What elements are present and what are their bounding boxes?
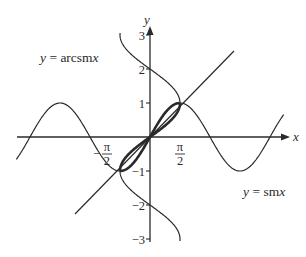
label-func: arcsm: [60, 50, 93, 65]
x-axis-label: x: [292, 129, 299, 144]
x-tick-label: π2−: [93, 140, 112, 168]
svg-text:π: π: [177, 140, 184, 154]
label-eq: =: [46, 50, 60, 65]
svg-text:2: 2: [177, 154, 183, 168]
label-func: sm: [263, 184, 279, 199]
y-tick-label: −1: [132, 165, 145, 179]
svg-text:π: π: [104, 140, 111, 154]
x-axis-arrow-icon: [281, 134, 290, 141]
label-y: y: [38, 50, 46, 65]
label-eq: =: [249, 184, 263, 199]
diagram-canvas: x y 321−1−2−3 π2−π2 y = arcsmx y = smx: [0, 0, 306, 257]
y-axis-label: y: [142, 12, 150, 27]
label-y: y: [241, 184, 249, 199]
label-var: x: [92, 50, 99, 65]
function-plot: x y 321−1−2−3 π2−π2 y = arcsmx y = smx: [0, 0, 306, 257]
x-tick-label: π2: [175, 140, 185, 168]
y-tick-label: 3: [139, 29, 145, 43]
label-var: x: [278, 184, 285, 199]
y-tick-label: 1: [139, 97, 145, 111]
axes: x y: [17, 12, 299, 242]
sin-curve-label: y = smx: [241, 184, 285, 199]
arcsin-curve-label: y = arcsmx: [38, 50, 99, 65]
y-tick-label: −3: [132, 233, 145, 247]
y-axis-arrow-icon: [147, 26, 154, 35]
